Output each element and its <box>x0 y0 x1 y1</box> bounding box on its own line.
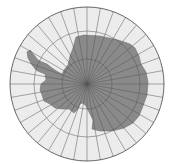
antarctica-polar-map <box>0 0 171 164</box>
